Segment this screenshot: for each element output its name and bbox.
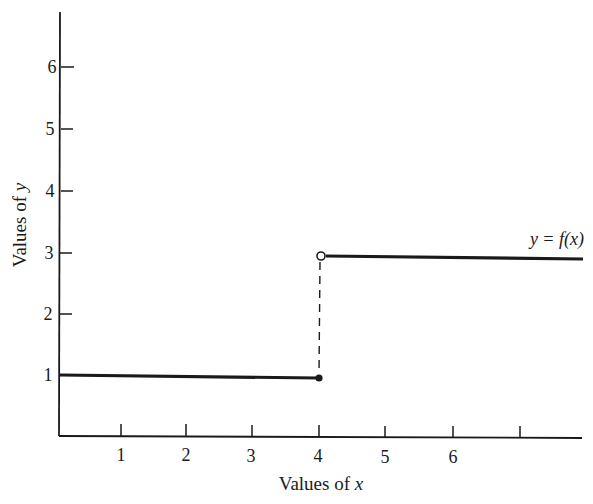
x-tick-label: 4 <box>314 446 323 466</box>
x-tick-label: 1 <box>117 445 126 465</box>
step-function-chart: 1 2 3 4 5 6 1 2 3 4 5 6 Values of x Valu… <box>0 0 593 504</box>
y-tick-label: 1 <box>44 365 53 385</box>
x-tick-labels: 1 2 3 4 5 6 <box>117 445 458 467</box>
y-tick-label: 3 <box>45 243 54 263</box>
closed-endpoint-marker <box>315 374 322 381</box>
y-tick-label: 6 <box>48 57 57 77</box>
x-axis <box>59 436 582 438</box>
y-tick-label: 5 <box>46 119 55 139</box>
y-ticks <box>60 67 74 375</box>
x-tick-label: 2 <box>182 445 191 465</box>
x-tick-label: 6 <box>449 447 458 467</box>
x-tick-label: 5 <box>381 447 390 467</box>
lower-segment <box>60 375 318 378</box>
function-label: y = f(x) <box>528 229 584 250</box>
upper-segment <box>326 256 583 259</box>
x-tick-label: 3 <box>247 446 256 466</box>
y-tick-labels: 1 2 3 4 5 6 <box>44 57 57 385</box>
y-axis-label: Values of y <box>9 182 30 267</box>
y-axis <box>59 12 60 436</box>
open-endpoint-marker <box>317 252 325 260</box>
y-tick-label: 2 <box>44 304 53 324</box>
jump-dashed-line <box>319 262 320 374</box>
x-axis-label: Values of x <box>279 473 364 494</box>
y-tick-label: 4 <box>46 181 55 201</box>
